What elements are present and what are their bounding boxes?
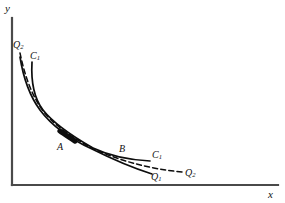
curve-label-q2-lower-sub: 2 <box>192 171 195 178</box>
curve-label-q1-lower-sub: 1 <box>158 175 161 182</box>
curve-label-c1-lower: C1 <box>152 150 162 161</box>
curve-label-q2-lower: Q2 <box>185 168 196 179</box>
curve-label-c1-upper: C1 <box>30 51 40 62</box>
y-axis-label: y <box>5 3 10 14</box>
curve-label-c1-upper-sub: 1 <box>37 54 40 61</box>
curve-label-c1-lower-sub: 1 <box>159 153 162 160</box>
curve-label-q2-upper: Q2 <box>13 40 24 51</box>
point-label-b: B <box>119 144 125 154</box>
curve-q1 <box>20 57 152 174</box>
curve-c1 <box>32 62 150 161</box>
point-label-a: A <box>57 142 63 152</box>
curve-label-q2-upper-sub: 2 <box>20 43 23 50</box>
curve-label-q1-lower: Q1 <box>151 172 162 183</box>
x-axis-label: x <box>268 189 273 200</box>
curve-label-c1-upper-text: C <box>30 50 37 61</box>
curve-plot <box>0 0 285 203</box>
figure-canvas: y x Q2 C1 C1 Q1 Q2 A B <box>0 0 285 203</box>
curve-label-c1-lower-text: C <box>152 149 159 160</box>
